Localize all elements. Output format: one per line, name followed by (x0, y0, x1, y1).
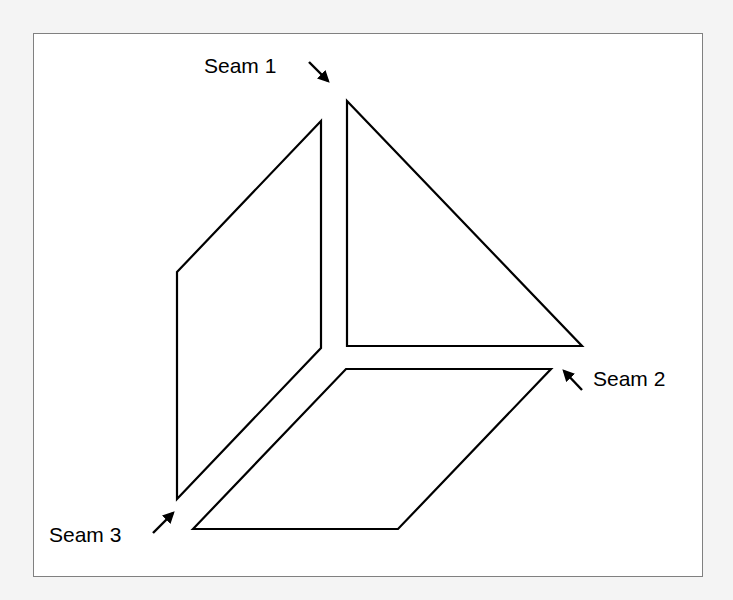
seam-1-arrow-icon (309, 62, 328, 81)
top-right-panel (347, 101, 582, 346)
seam-3-label: Seam 3 (49, 524, 121, 545)
seam-3-arrow-icon (153, 513, 173, 533)
left-panel (177, 121, 321, 499)
bottom-panel (193, 369, 551, 529)
seam-2-label: Seam 2 (593, 368, 665, 389)
cube-unfold-diagram (0, 0, 733, 600)
seam-2-arrow-icon (564, 371, 582, 390)
seam-1-label: Seam 1 (204, 55, 276, 76)
